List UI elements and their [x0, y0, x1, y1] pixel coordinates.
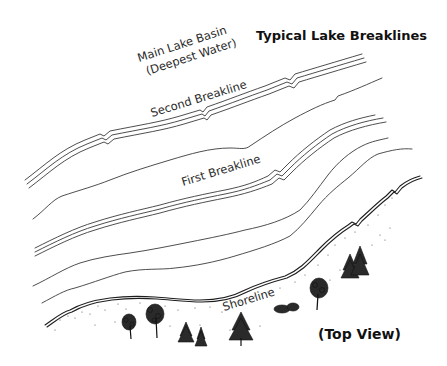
second-breakline-label: Second Breakline — [149, 77, 249, 120]
deciduous-tree-icon — [310, 278, 328, 310]
deciduous-tree-icon — [146, 304, 164, 338]
main-basin-label: Main Lake Basin (Deepest Water) — [136, 21, 239, 79]
conifer-tree-icon — [178, 322, 207, 346]
conifer-tree-icon — [229, 312, 253, 346]
second-breakline-edge — [25, 54, 366, 188]
contour-b — [33, 138, 388, 286]
lake-breaklines-diagram: Typical Lake Breaklines Main Lake Basin … — [0, 0, 447, 366]
top-view-label: (Top View) — [318, 326, 401, 342]
diagram-title: Typical Lake Breaklines — [256, 28, 427, 43]
shrub-icon — [274, 303, 299, 313]
conifer-tree-icon — [341, 246, 369, 278]
deciduous-tree-icon — [122, 314, 136, 339]
first-breakline-edge — [35, 115, 386, 256]
